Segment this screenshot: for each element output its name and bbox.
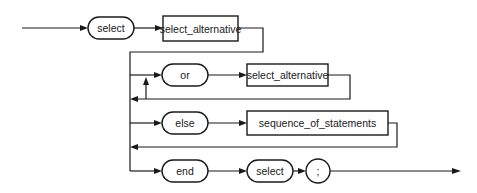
keyword-select: select (88, 17, 134, 39)
arrow-right-icon (239, 168, 247, 174)
keyword-select-end: select (247, 160, 293, 182)
terminal-semicolon: ; (306, 159, 330, 183)
arrow-right-icon (239, 120, 247, 126)
nonterminal-select-alternative-2-label: select_alternative (247, 69, 329, 81)
keyword-end: end (162, 160, 208, 182)
arrow-right-icon (80, 25, 88, 31)
keyword-end-label: end (176, 165, 194, 177)
select-statement-syntax-diagram: select select_alternative or select_alte… (0, 0, 477, 193)
arrow-right-icon (452, 168, 461, 174)
keyword-select-end-label: select (256, 165, 284, 177)
arrow-right-icon (154, 72, 162, 78)
keyword-select-label: select (97, 22, 125, 34)
keyword-or: or (162, 64, 208, 86)
arrow-right-icon (298, 168, 306, 174)
nonterminal-select-alternative-label: select_alternative (160, 23, 242, 35)
nonterminal-select-alternative-2: select_alternative (247, 64, 329, 86)
keyword-or-label: or (180, 69, 190, 81)
nonterminal-sequence-of-statements: sequence_of_statements (247, 111, 388, 135)
arrow-left-icon (130, 96, 138, 102)
arrow-right-icon (154, 168, 162, 174)
nonterminal-select-alternative: select_alternative (160, 16, 242, 41)
keyword-else-label: else (175, 117, 194, 129)
arrow-up-icon (143, 77, 149, 85)
arrow-right-icon (154, 120, 162, 126)
keyword-else: else (162, 112, 208, 134)
nonterminal-sequence-of-statements-label: sequence_of_statements (259, 117, 376, 129)
arrow-left-icon (130, 144, 138, 150)
terminal-semicolon-label: ; (317, 165, 320, 177)
